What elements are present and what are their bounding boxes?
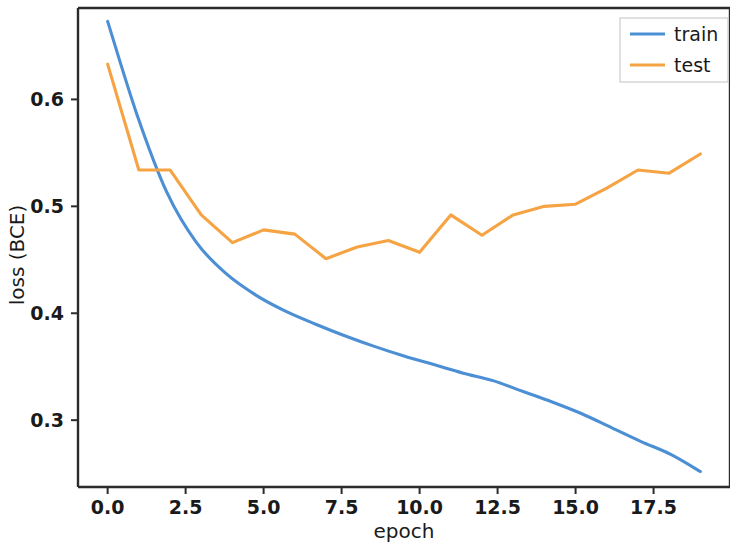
x-tick-label: 7.5 (325, 496, 359, 518)
y-axis-tick-labels: 0.30.40.50.6 (30, 88, 64, 431)
legend-label-test: test (674, 54, 711, 76)
x-tick-label: 15.0 (552, 496, 599, 518)
y-axis-title: loss (BCE) (5, 205, 29, 306)
chart-figure: 0.02.55.07.510.012.515.017.5 0.30.40.50.… (0, 0, 730, 547)
x-tick-label: 17.5 (630, 496, 677, 518)
y-tick-label: 0.6 (30, 88, 64, 110)
series-line-test (108, 64, 701, 259)
y-tick-label: 0.4 (30, 302, 64, 324)
line-chart-canvas: 0.02.55.07.510.012.515.017.5 0.30.40.50.… (0, 0, 730, 547)
data-series-group (108, 21, 701, 471)
x-axis-title: epoch (374, 519, 435, 543)
legend-label-train: train (674, 23, 718, 45)
x-tick-label: 10.0 (396, 496, 443, 518)
x-tick-label: 12.5 (474, 496, 521, 518)
x-tick-label: 2.5 (169, 496, 203, 518)
x-tick-label: 5.0 (247, 496, 281, 518)
y-tick-label: 0.3 (30, 409, 64, 431)
y-tick-label: 0.5 (30, 195, 64, 217)
chart-legend: traintest (620, 18, 728, 82)
x-tick-label: 0.0 (91, 496, 125, 518)
x-axis-tick-labels: 0.02.55.07.510.012.515.017.5 (91, 496, 677, 518)
